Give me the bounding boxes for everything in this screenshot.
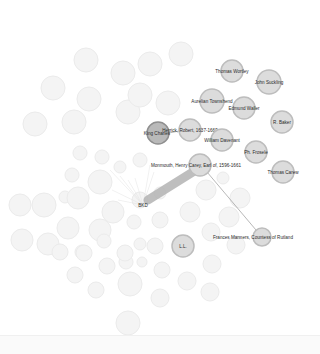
node-aurelian-townshend[interactable]: Aurelian Townshend bbox=[191, 89, 233, 113]
node-frances-manners[interactable]: Frances Manners, Countess of Rutland bbox=[213, 228, 293, 246]
node-ll[interactable]: L.L. bbox=[172, 235, 194, 257]
node-edmund-waller[interactable]: Edmund Waller bbox=[228, 97, 260, 119]
node-label: Monmouth, Henry Carey, Earl of, 1596-166… bbox=[151, 163, 241, 168]
node-label: L.L. bbox=[179, 244, 187, 249]
thick-edge-monmouth-bkd bbox=[148, 170, 196, 200]
node-label: William Davenant bbox=[204, 138, 240, 143]
node-label: Frances Manners, Countess of Rutland bbox=[213, 235, 293, 240]
node-thomas-carew[interactable]: Thomas Carew bbox=[267, 161, 299, 183]
node-thomas-wortley[interactable]: Thomas Wortley bbox=[215, 60, 249, 82]
node-monmouth[interactable]: Monmouth, Henry Carey, Earl of, 1596-166… bbox=[151, 154, 241, 176]
node-king-charles[interactable]: King Charles bbox=[144, 122, 171, 144]
node-john-suckling[interactable]: John Suckling bbox=[255, 70, 284, 94]
node-label: Thomas Carew bbox=[267, 170, 299, 175]
node-label: Aurelian Townshend bbox=[191, 99, 233, 104]
bkd-label: BKD bbox=[138, 203, 148, 208]
node-label: R. Baker bbox=[273, 120, 291, 125]
node-label: Ph. Frosele bbox=[244, 150, 268, 155]
node-ph-fresele[interactable]: Ph. Frosele bbox=[244, 141, 268, 163]
node-label: Herrick, Robert, 1637-1669 bbox=[162, 128, 218, 133]
bottom-strip bbox=[0, 335, 320, 354]
faint-nodes bbox=[9, 42, 250, 335]
node-label: John Suckling bbox=[255, 80, 284, 85]
node-label: Edmund Waller bbox=[228, 106, 260, 111]
node-label: Thomas Wortley bbox=[215, 69, 249, 74]
node-r-baker[interactable]: R. Baker bbox=[271, 111, 293, 133]
